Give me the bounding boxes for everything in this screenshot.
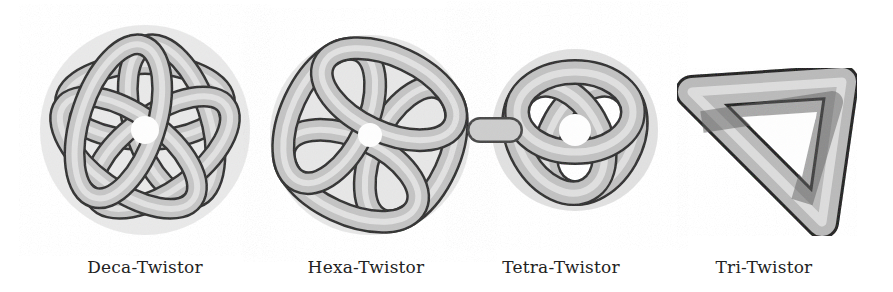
hexa-twistor-knot — [264, 29, 475, 240]
figure-canvas — [0, 0, 893, 292]
tetra-twistor-knot — [467, 22, 668, 229]
caption-tetra-twistor: Tetra-Twistor — [502, 257, 620, 277]
caption-hexa-twistor: Hexa-Twistor — [308, 257, 425, 277]
tri-twistor-knot — [692, 82, 842, 222]
deca-twistor-knot — [40, 25, 250, 235]
caption-tri-twistor: Tri-Twistor — [716, 257, 813, 277]
caption-deca-twistor: Deca-Twistor — [87, 257, 203, 277]
